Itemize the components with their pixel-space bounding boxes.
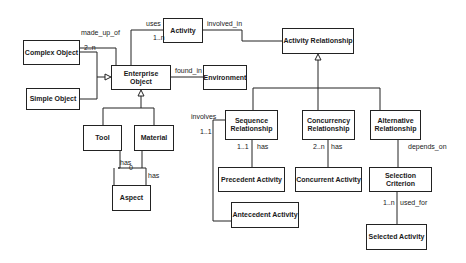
class-precedent-activity[interactable]: Precedent Activity — [218, 167, 285, 192]
multiplicity-11-has: 1..1 — [237, 143, 249, 151]
multiplicity-2n-concurrency: 2..n — [313, 143, 325, 151]
class-label-line2: Relationship — [230, 125, 272, 133]
class-selected-activity[interactable]: Selected Activity — [366, 224, 427, 250]
class-enterprise-object[interactable]: Enterprise Object — [111, 65, 171, 90]
class-label-line1: Sequence — [235, 117, 268, 125]
class-activity-relationship[interactable]: Activity Relationship — [282, 28, 354, 54]
multiplicity-1n-used-for: 1..n — [383, 199, 395, 207]
multiplicity-2n-made-up-of: 2..n — [84, 44, 96, 52]
class-sequence-relationship[interactable]: Sequence Relationship — [225, 110, 278, 140]
multiplicity-11-involves: 1..1 — [200, 128, 212, 136]
label-depends-on: depends_on — [408, 143, 447, 151]
label-has-material: has — [148, 172, 159, 180]
label-involves: involves — [191, 113, 216, 121]
generalization-arrow-icon — [138, 90, 144, 96]
class-label-line1: Alternative — [377, 117, 413, 125]
class-complex-object[interactable]: Complex Object — [23, 40, 80, 65]
multiplicity-1n-uses: 1..n — [153, 34, 165, 42]
class-antecedent-activity[interactable]: Antecedent Activity — [231, 202, 299, 228]
label-involved-in: involved_in — [207, 20, 242, 28]
class-concurrent-activity[interactable]: Concurrent Activity — [295, 167, 362, 192]
class-alternative-relationship[interactable]: Alternative Relationship — [370, 110, 421, 140]
class-concurrency-relationship[interactable]: Concurrency Relationship — [302, 110, 355, 140]
generalization-arrow-icon — [315, 54, 321, 60]
label-aspect-multiplicity: 0 — [129, 164, 133, 172]
class-label-line1: Concurrency — [307, 117, 350, 125]
class-activity[interactable]: Activity — [163, 18, 203, 43]
class-simple-object[interactable]: Simple Object — [26, 88, 80, 110]
class-label-line2: Relationship — [374, 125, 416, 133]
label-has-concurrency: has — [331, 143, 342, 151]
class-aspect[interactable]: Aspect — [112, 185, 151, 211]
label-uses: uses — [146, 20, 161, 28]
class-label-line2: Relationship — [307, 125, 349, 133]
class-tool[interactable]: Tool — [83, 125, 122, 151]
label-found-in: found_in — [175, 67, 202, 75]
label-used-for: used_for — [400, 199, 427, 207]
uml-diagram: Complex Object Simple Object Enterprise … — [0, 0, 466, 263]
class-environment[interactable]: Environment — [203, 65, 247, 90]
label-has-sequence: has — [257, 143, 268, 151]
class-material[interactable]: Material — [134, 125, 174, 151]
label-made-up-of: made_up_of — [81, 29, 120, 37]
class-selection-criterion[interactable]: Selection Criterion — [369, 167, 432, 192]
